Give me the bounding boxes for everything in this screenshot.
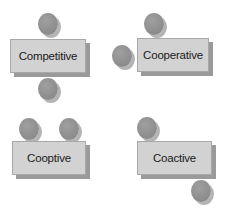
coactive-top-circle	[137, 117, 157, 139]
diagram: Competitive Cooperative Cooptive Coactiv…	[0, 0, 225, 221]
cooperative-left-circle	[112, 45, 132, 67]
cooptive-right-circle	[59, 118, 79, 140]
competitive-label: Competitive	[19, 50, 78, 62]
competitive-top-circle	[38, 13, 58, 35]
coactive-bottom-circle	[191, 180, 211, 202]
cooptive-left-circle	[19, 118, 39, 140]
cooperative-label: Cooperative	[143, 49, 203, 61]
competitive-box: Competitive	[10, 39, 86, 73]
cooperative-box: Cooperative	[137, 38, 209, 72]
coactive-box: Coactive	[137, 141, 212, 175]
competitive-bottom-circle	[38, 78, 58, 100]
cooptive-label: Cooptive	[27, 152, 71, 164]
cooperative-top-circle	[144, 13, 164, 35]
coactive-label: Coactive	[153, 152, 196, 164]
cooptive-box: Cooptive	[12, 141, 86, 175]
